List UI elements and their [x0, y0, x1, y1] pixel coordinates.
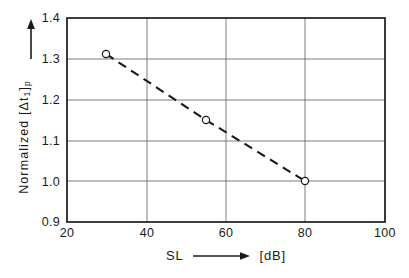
grid-lines-vertical	[147, 18, 305, 222]
data-point-marker	[202, 116, 209, 123]
chart-figure: Normalized [Δt1]p 1.4 1.3 1.2 1.1 1.0 0.…	[0, 0, 409, 278]
x-axis-title-container: SL [dB]	[67, 248, 385, 263]
arrow-right-icon	[193, 250, 251, 262]
x-axis-arrow	[193, 250, 251, 262]
plot-area	[0, 0, 409, 278]
data-points	[102, 50, 308, 184]
data-point-marker	[102, 50, 109, 57]
data-point-marker	[301, 177, 308, 184]
x-axis-unit: [dB]	[260, 248, 286, 263]
x-axis-title: SL	[166, 248, 184, 263]
